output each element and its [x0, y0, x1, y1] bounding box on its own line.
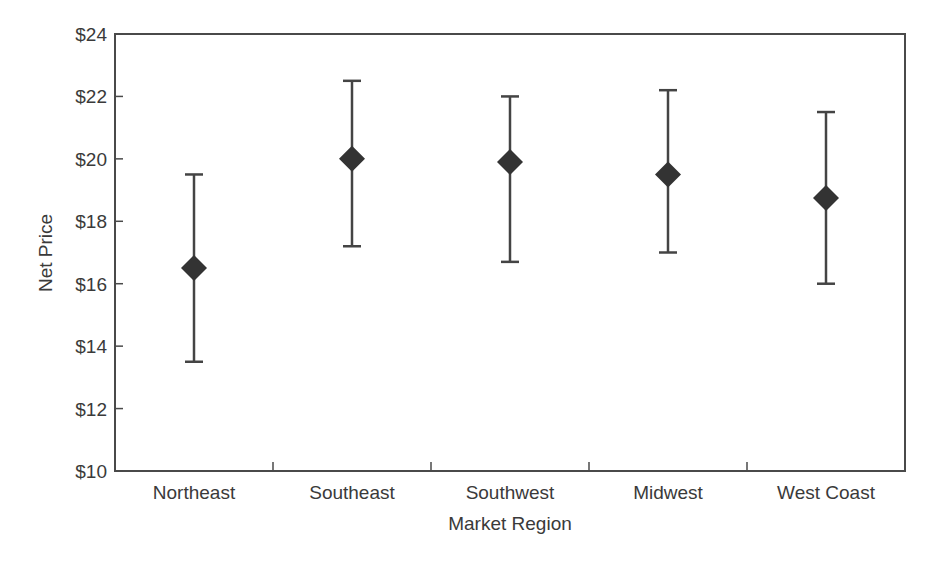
y-tick-label: $16 [75, 274, 107, 295]
data-point-northeast [181, 174, 207, 361]
x-tick-label: Midwest [633, 482, 703, 503]
diamond-marker-icon [655, 161, 681, 187]
x-tick-label: West Coast [777, 482, 876, 503]
diamond-marker-icon [813, 185, 839, 211]
data-point-midwest [655, 90, 681, 252]
diamond-marker-icon [181, 255, 207, 281]
data-point-southeast [339, 81, 365, 246]
x-axis-label: Market Region [448, 513, 572, 534]
diamond-marker-icon [339, 146, 365, 172]
data-point-southwest [497, 96, 523, 261]
y-tick-label: $18 [75, 211, 107, 232]
y-tick-label: $22 [75, 86, 107, 107]
x-tick-label: Northeast [153, 482, 236, 503]
x-axis: NortheastSoutheastSouthwestMidwestWest C… [153, 462, 876, 503]
y-tick-label: $14 [75, 336, 107, 357]
diamond-marker-icon [497, 149, 523, 175]
y-tick-label: $12 [75, 399, 107, 420]
y-tick-label: $10 [75, 461, 107, 482]
data-point-west-coast [813, 112, 839, 284]
y-tick-label: $24 [75, 24, 107, 45]
x-tick-label: Southeast [309, 482, 395, 503]
chart-canvas: $10$12$14$16$18$20$22$24 NortheastSouthe… [0, 0, 940, 565]
x-tick-label: Southwest [466, 482, 555, 503]
data-series [181, 81, 839, 362]
y-axis-label: Net Price [35, 214, 56, 292]
y-tick-label: $20 [75, 149, 107, 170]
net-price-by-region-chart: $10$12$14$16$18$20$22$24 NortheastSouthe… [0, 0, 940, 565]
